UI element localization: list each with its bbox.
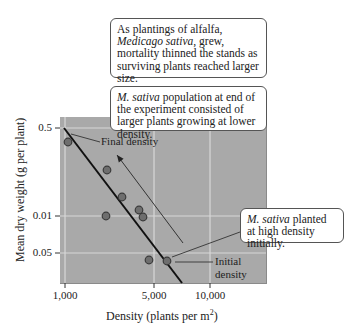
time-arrow-icon [117,155,183,243]
data-point [64,138,72,146]
x-tick-label: 10,000 [185,289,235,301]
data-point [163,257,171,265]
y-axis-title: Mean dry weight (g per plant) [13,118,28,262]
x-tick-label: 5,000 [129,289,179,301]
x-tick-label: 1,000 [40,289,90,301]
x-axis-title-text: Density (plants per m [106,309,210,323]
x-axis-title: Density (plants per m2) [106,308,218,324]
data-point [118,193,126,201]
initial-density-label: Initial density [215,255,247,281]
callout-initial-species: M. sativa [247,213,290,225]
initial-density-line2: density [215,268,247,281]
axis-ticks [55,128,210,288]
x-axis-title-close: ) [214,309,218,323]
callout-thinning-text1: As plantings of alfalfa, [117,23,222,35]
initial-density-line1: Initial [215,255,247,268]
callout-final-population: M. sativa population at end of the exper… [110,86,267,131]
callout-initial-planting: M. sativa planted at high density initia… [240,208,344,243]
data-point [102,212,110,220]
data-point [139,213,147,221]
data-point [135,206,143,214]
callout-thinning-species: Medicago sativa [117,35,193,47]
data-point [145,256,153,264]
data-point [103,166,111,174]
callout-thinning: As plantings of alfalfa, Medicago sativa… [110,18,267,78]
callout-final-species: M. sativa [117,91,160,103]
leader-lines [71,134,240,262]
